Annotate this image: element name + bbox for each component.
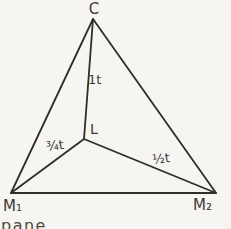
- segment-label-half-t: ½t: [151, 150, 170, 167]
- vertex-label-C: C: [89, 0, 99, 18]
- vertex-label-M1: M₁: [3, 197, 22, 215]
- figure-canvas: C M₁ M₂ L 1t ¾t ½t pane: [0, 0, 231, 229]
- point-label-L: L: [90, 121, 98, 137]
- triangle-outline: [11, 19, 216, 193]
- triangle-diagram: C M₁ M₂ L 1t ¾t ½t pane: [0, 0, 231, 229]
- segment-label-1t: 1t: [88, 72, 101, 87]
- vertex-label-M2: M₂: [193, 196, 212, 214]
- segment-label-three-quarter-t: ¾t: [45, 137, 64, 154]
- partial-caption-text: pane: [1, 216, 47, 229]
